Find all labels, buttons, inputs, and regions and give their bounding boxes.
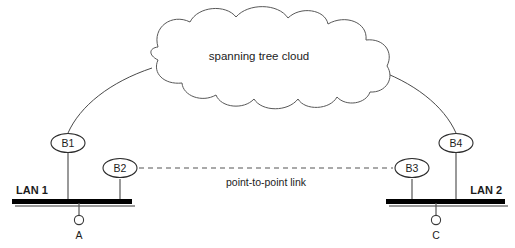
lan1-bar (12, 199, 132, 204)
bridge-node-b2[interactable]: B2 (103, 159, 137, 178)
lan2-bar (386, 199, 505, 204)
host-c-label: C (432, 229, 440, 241)
lan1-bar-shadow (15, 205, 135, 207)
bridge-b4-label: B4 (450, 137, 463, 149)
bridge-b3-label: B3 (406, 162, 419, 174)
host-a-node (74, 215, 83, 224)
lan1-label: LAN 1 (16, 184, 48, 196)
lan2-label: LAN 2 (470, 184, 502, 196)
bridge-b2-label: B2 (114, 162, 127, 174)
bridge-node-b3[interactable]: B3 (395, 159, 429, 178)
bridge-b1-label: B1 (62, 137, 75, 149)
link-b1-to-cloud (68, 68, 152, 133)
cloud-label: spanning tree cloud (209, 50, 309, 62)
lan2-bar-shadow (389, 205, 508, 207)
diagram-canvas: spanning tree cloud point-to-point link … (0, 0, 515, 248)
bridge-node-b4[interactable]: B4 (439, 134, 473, 153)
host-a-label: A (75, 229, 82, 241)
bridge-node-b1[interactable]: B1 (51, 134, 85, 153)
point-to-point-link-label: point-to-point link (226, 176, 307, 188)
host-c-node (431, 215, 440, 224)
network-diagram: spanning tree cloud point-to-point link … (0, 0, 515, 248)
